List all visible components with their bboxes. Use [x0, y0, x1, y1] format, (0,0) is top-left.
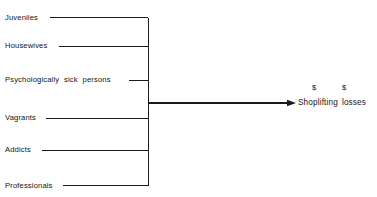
dollar-icon: $: [312, 84, 316, 92]
output-label: Shoplifting losses: [298, 99, 366, 107]
branch-label: Psychologically sick persons: [5, 76, 111, 84]
branch-label: Housewives: [5, 42, 47, 50]
branch-label: Professionals: [5, 182, 53, 190]
output-arrow-group: [148, 100, 296, 106]
output-arrow-head: [287, 100, 296, 106]
convergence-diagram: JuvenilesHousewivesPsychologically sick …: [0, 0, 377, 197]
branch-label: Addicts: [5, 146, 31, 154]
branch-label: Vagrants: [5, 114, 36, 122]
dollar-icon: $: [342, 84, 346, 92]
branch-line-group: [42, 18, 148, 186]
branch-label: Juveniles: [5, 14, 38, 22]
